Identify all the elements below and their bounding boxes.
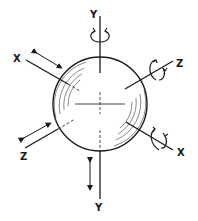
label-y-top: Y [89,9,98,20]
y-axis: Y Y [89,9,109,213]
label-x-right: X [177,147,185,158]
z-axis: Z Z [20,58,183,162]
label-y-bottom: Y [94,202,103,213]
label-z-left: Z [20,151,27,162]
x-translation-icon [35,52,60,67]
shading-upper-left [54,62,86,118]
label-x-left: X [13,53,21,64]
sphere-axes-diagram: Y Y X X Z [0,0,198,221]
x-axis: X X [13,52,185,158]
z-dashed-inner [58,119,75,129]
label-z-right: Z [176,58,183,69]
shading-lower-right [114,90,146,146]
x-dashed-inner [68,84,80,91]
